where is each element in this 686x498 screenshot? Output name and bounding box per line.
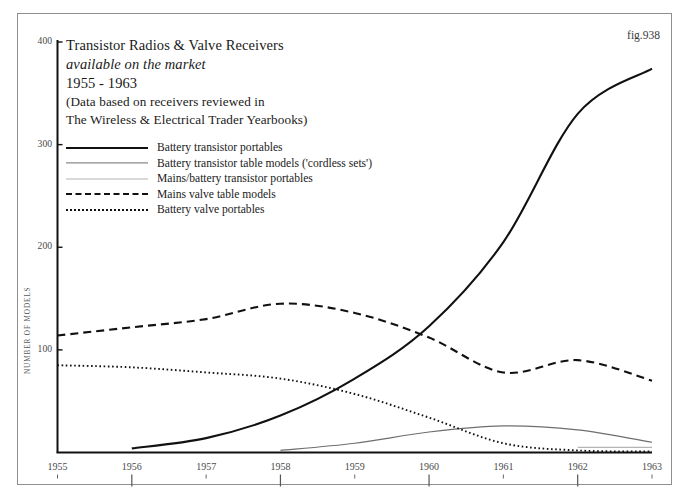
x-tick-label: 1957 [183, 461, 229, 472]
x-tick-label: 1960 [406, 461, 452, 472]
x-tick-label: 1961 [480, 461, 526, 472]
y-tick-label: 100 [26, 343, 52, 354]
y-tick-label: 400 [26, 35, 52, 46]
x-tick-label: 1958 [257, 461, 303, 472]
x-tick-label: 1959 [332, 461, 378, 472]
chart-page: fig.938 Transistor Radios & Valve Receiv… [0, 0, 686, 498]
x-tick-label: 1962 [555, 461, 601, 472]
plot-canvas [0, 0, 686, 498]
y-tick-label: 300 [26, 138, 52, 149]
series-line [280, 426, 652, 451]
series-line [58, 304, 653, 381]
series-line [132, 69, 652, 449]
y-tick-label: 200 [26, 240, 52, 251]
x-tick-label: 1956 [109, 461, 155, 472]
x-tick-label: 1963 [629, 461, 675, 472]
plot-area [0, 0, 686, 498]
x-tick-label: 1955 [35, 461, 81, 472]
